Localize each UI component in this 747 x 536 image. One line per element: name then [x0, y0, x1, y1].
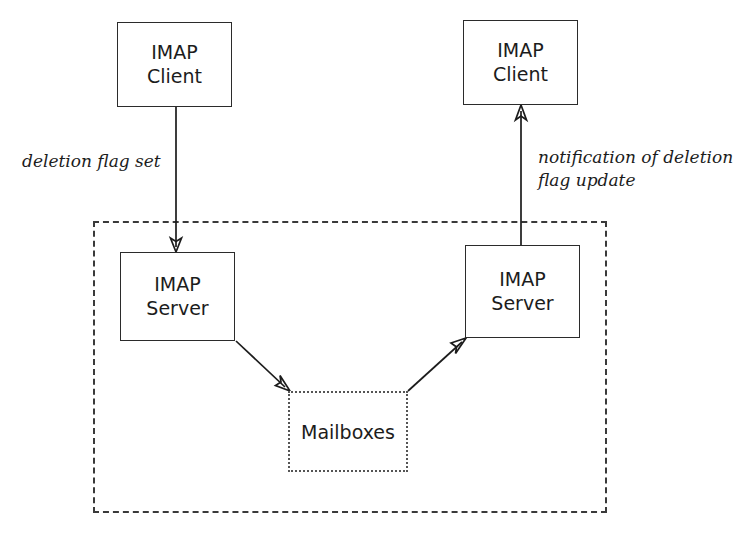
edge-label-text-line1: notification of deletion: [538, 146, 733, 169]
node-label-line2: Client: [147, 65, 202, 89]
edge-label-text-line2: flag update: [538, 169, 733, 192]
node-label-line1: IMAP: [151, 41, 197, 65]
edge-label-deletion-flag-set: deletion flag set: [22, 150, 161, 173]
node-label-line2: Client: [493, 63, 548, 87]
edge-server-left-to-mailboxes: [236, 341, 290, 391]
node-mailboxes[interactable]: Mailboxes: [288, 391, 408, 472]
node-label-line1: IMAP: [497, 39, 543, 63]
node-imap-server-left[interactable]: IMAP Server: [120, 252, 235, 341]
edge-client-left-to-server-left: [171, 107, 182, 252]
edge-label-text: deletion flag set: [22, 151, 161, 171]
diagram-canvas: IMAP Client IMAP Client IMAP Server IMAP…: [0, 0, 747, 536]
edge-mailboxes-to-server-right: [408, 338, 466, 391]
node-label-line2: Server: [491, 292, 553, 316]
node-label-line2: Server: [146, 297, 208, 321]
node-label-line1: IMAP: [154, 273, 200, 297]
edge-label-notification-of-deletion-flag-update: notification of deletion flag update: [538, 146, 733, 192]
edge-server-right-to-client-right: [516, 105, 527, 245]
node-imap-client-left[interactable]: IMAP Client: [117, 22, 232, 107]
node-imap-server-right[interactable]: IMAP Server: [465, 245, 580, 338]
node-label-line1: IMAP: [499, 268, 545, 292]
node-imap-client-right[interactable]: IMAP Client: [463, 20, 578, 105]
node-label: Mailboxes: [301, 421, 395, 443]
